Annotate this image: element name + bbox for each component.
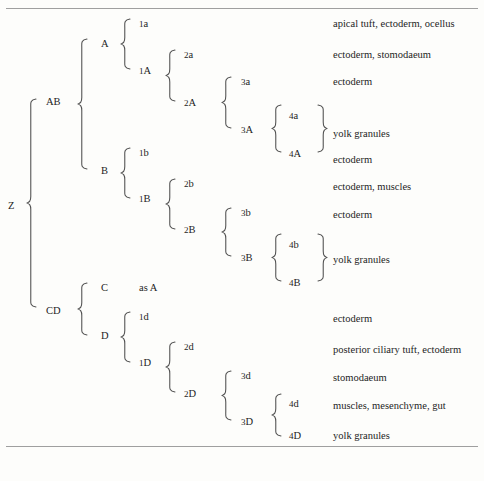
brace-AB (78, 39, 88, 169)
brace-2B (222, 208, 232, 256)
node-n2a: 2a (184, 49, 193, 61)
clipped-running-head (8, 0, 476, 6)
fate-4d: muscles, mesenchyme, gut (333, 400, 446, 412)
node-n4b: 4b (289, 239, 299, 251)
fate-4D: yolk granules (333, 430, 390, 442)
node-c: C (101, 282, 108, 293)
brace-3B-l (272, 234, 282, 281)
node-n1d: 1d (139, 311, 149, 323)
node-n2B: 2B (184, 224, 196, 236)
node-b: B (101, 165, 108, 176)
node-n2d: 2d (184, 341, 194, 353)
node-n3D: 3D (241, 416, 253, 428)
node-a: A (101, 38, 109, 49)
bottom-rule (6, 446, 478, 447)
node-n4A: 4A (289, 148, 301, 160)
node-n4a: 4a (289, 110, 298, 122)
fate-4bB: yolk granules (333, 254, 390, 266)
brace-2A (222, 77, 232, 128)
brace-2D (222, 371, 232, 420)
node-as_a: as A (139, 282, 157, 293)
node-n2b: 2b (184, 178, 194, 190)
node-n3d: 3d (241, 370, 251, 382)
node-n4D: 4D (289, 430, 301, 442)
brace-B (121, 148, 131, 198)
fate-2d: posterior ciliary tuft, ectoderm (333, 344, 461, 356)
node-n4B: 4B (289, 277, 301, 289)
fate-3d: stomodaeum (333, 372, 387, 384)
node-cd: CD (46, 305, 61, 316)
node-n3b: 3b (241, 207, 251, 219)
top-rule (6, 8, 478, 9)
fate-1d: ectoderm (333, 313, 372, 325)
node-n1a: 1a (139, 18, 148, 30)
brace-D (121, 312, 131, 362)
node-n1B: 1B (139, 193, 151, 205)
node-n2D: 2D (184, 388, 196, 400)
node-ab: AB (46, 96, 61, 107)
fate-2a: ectoderm, stomodaeum (333, 49, 431, 61)
brace-3A-r (317, 105, 327, 152)
node-n3B: 3B (241, 252, 253, 264)
fate-3b: ectoderm (333, 209, 372, 221)
brace-3A-l (272, 105, 282, 152)
node-n4d: 4d (289, 398, 299, 410)
node-n3A: 3A (241, 124, 253, 136)
fate-4aA: yolk granules (333, 128, 390, 140)
brace-CD (78, 283, 88, 335)
node-d: D (101, 330, 109, 341)
brace-A (121, 19, 131, 69)
node-n2A: 2A (184, 97, 196, 109)
brace-3D-l (272, 394, 282, 436)
brace-3B-r (317, 234, 327, 281)
lineage-figure: ZABCDABCD1a1A1b1Bas A1d1D2a2A2b2B2d2D3a3… (0, 0, 484, 481)
node-n3a: 3a (241, 76, 250, 88)
brace-1D (166, 342, 176, 392)
fate-1a: apical tuft, ectoderm, ocellus (333, 18, 455, 30)
node-n1b: 1b (139, 147, 149, 159)
fate-2b: ectoderm, muscles (333, 181, 411, 193)
brace-Z (27, 99, 37, 307)
brace-1B (166, 179, 176, 229)
brace-1A (166, 50, 176, 101)
fate-3a: ectoderm (333, 76, 372, 88)
fate-1b: ectoderm (333, 154, 372, 166)
node-n1D: 1D (139, 357, 151, 369)
node-n1A: 1A (139, 65, 151, 77)
node-root: Z (8, 200, 14, 211)
